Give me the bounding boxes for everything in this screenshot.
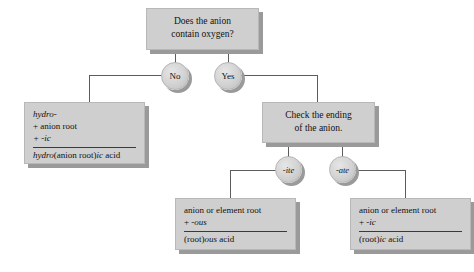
ic-rule-result-word: acid [386,234,403,244]
hydro-rule-line-3: + -ic [33,133,136,145]
node-hydro-rule: hydro- + anion root + -ic hydro(anion ro… [24,102,145,164]
connector-yes-horizontal [241,75,318,76]
ic-rule-line-1: anion or element root [359,205,462,217]
connector-ite-vertical [230,170,231,198]
node-answer-no[interactable]: No [161,62,189,90]
ic-rule-line-2: + -ic [359,217,462,229]
connector-no-vertical [89,75,90,103]
ous-rule-result-prefix: (root) [184,234,205,244]
flowchart-figure: Does the anion contain oxygen? No Yes hy… [0,0,474,272]
ic-rule-result: (root)ic acid [359,231,462,246]
answer-no-label: No [170,71,181,81]
connector-ite-horizontal [230,170,276,171]
question-line-1: Does the anion [155,15,250,28]
ending-ate-label: -ate [336,165,349,175]
node-answer-yes[interactable]: Yes [214,62,242,90]
ous-rule-result-word: acid [217,234,234,244]
ic-rule-result-prefix: (root) [359,234,380,244]
node-ending-ate[interactable]: -ate [329,156,356,183]
ous-rule-result-suffix: ous [205,234,218,244]
hydro-rule-result-prefix: hydro [33,150,54,160]
ous-rule-suffix: -ous [191,217,207,227]
check-ending-line-1: Check the ending [271,109,366,122]
ous-rule-line-2: + -ous [184,217,287,229]
connector-check-to-ate [342,143,343,157]
answer-yes-label: Yes [221,71,234,81]
ous-rule-result: (root)ous acid [184,231,287,246]
hydro-rule-result-word: acid [103,150,120,160]
ending-ite-label: -ite [283,165,294,175]
hydro-rule-result: hydro(anion root)ic acid [33,147,136,162]
node-check-ending: Check the ending of the anion. [262,102,375,143]
node-ending-ite[interactable]: -ite [275,156,302,183]
hydro-rule-line-1: hydro- [33,109,136,121]
connector-ate-vertical [405,170,406,198]
hydro-rule-result-middle: (anion root) [54,150,97,160]
ous-rule-line-1: anion or element root [184,205,287,217]
hydro-rule-line-2: + anion root [33,121,136,133]
connector-no-horizontal [89,75,162,76]
question-line-2: contain oxygen? [155,28,250,41]
connector-ate-horizontal [354,170,406,171]
ic-rule-suffix: -ic [366,217,376,227]
check-ending-line-2: of the anion. [271,122,366,135]
node-question: Does the anion contain oxygen? [146,8,259,50]
node-ic-rule: anion or element root + -ic (root)ic aci… [350,198,471,250]
node-ous-rule: anion or element root + -ous (root)ous a… [175,198,296,250]
connector-check-to-ite [288,143,289,157]
connector-yes-vertical [317,75,318,103]
